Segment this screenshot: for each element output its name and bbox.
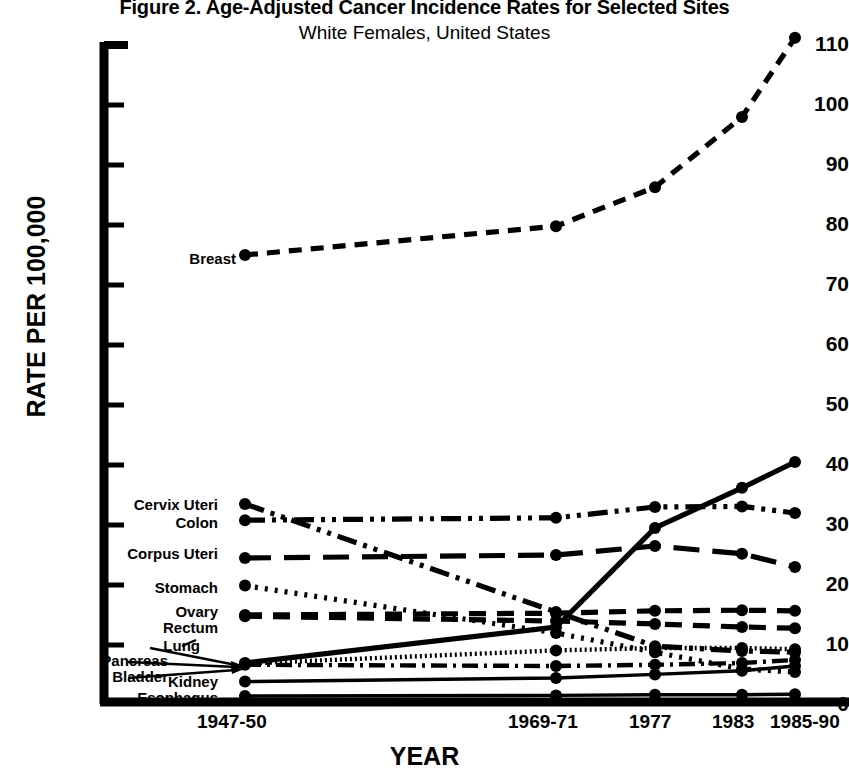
data-point [239,676,251,688]
data-point [789,561,801,573]
series-breast [239,32,801,261]
data-point [789,32,801,44]
data-point [736,111,748,123]
data-point [239,580,251,592]
series-layer [239,32,801,702]
data-point [239,659,251,671]
data-point [649,540,661,552]
data-point [550,220,562,232]
data-point [736,604,748,616]
data-point [649,689,661,701]
data-point [649,181,661,193]
data-point [239,552,251,564]
data-point [550,660,562,672]
data-point [550,549,562,561]
data-point [736,665,748,677]
data-point [649,501,661,513]
data-point [239,610,251,622]
data-point [239,498,251,510]
data-point [649,618,661,630]
data-point [649,642,661,654]
data-point [550,672,562,684]
series-ovary [239,604,801,621]
data-point [789,688,801,700]
axis-lines [100,42,849,704]
data-point [736,689,748,701]
data-point [736,548,748,560]
data-point [550,644,562,656]
data-point [736,621,748,633]
chart-figure: Figure 2. Age-Adjusted Cancer Incidence … [0,0,849,778]
data-point [789,456,801,468]
data-point [789,660,801,672]
data-point [736,642,748,654]
data-point [550,689,562,701]
data-point [550,621,562,633]
data-point [239,249,251,261]
data-point [736,500,748,512]
data-point [550,512,562,524]
data-point [649,668,661,680]
data-point [789,643,801,655]
data-point [789,507,801,519]
data-point [789,605,801,617]
data-point [649,605,661,617]
series-lung [239,456,801,669]
plot-area [0,0,849,778]
series-corpus-uteri [239,540,801,573]
series-bladder [239,654,801,672]
data-point [736,482,748,494]
data-point [649,522,661,534]
data-point [789,622,801,634]
series-colon [239,500,801,526]
data-point [239,514,251,526]
data-point [239,690,251,702]
